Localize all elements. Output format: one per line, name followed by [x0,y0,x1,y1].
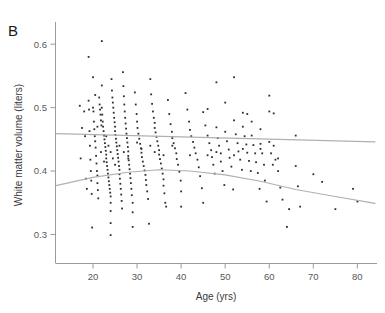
data-point [104,138,106,140]
data-point [145,184,147,186]
data-point [139,143,141,145]
data-point [246,113,248,115]
data-point [180,190,182,192]
data-point [279,187,281,189]
data-point [312,173,314,175]
data-point [98,97,100,99]
data-point [154,151,156,153]
data-point [233,76,235,78]
data-point [195,152,197,154]
data-point [141,148,143,150]
data-point [86,188,88,190]
data-point [229,157,231,159]
data-point [186,109,188,111]
data-point [185,92,187,94]
data-point [105,135,107,137]
data-point [297,185,299,187]
data-point [202,111,204,113]
data-point [110,210,112,212]
data-point [189,154,191,156]
data-point [123,95,125,97]
data-point [102,126,104,128]
data-point [188,121,190,123]
data-point [159,158,161,160]
data-point [170,123,172,125]
data-point [110,234,112,236]
data-point [112,107,114,109]
data-point [136,142,138,144]
data-point [207,135,209,137]
data-point [224,102,226,104]
data-point [135,104,137,106]
data-point [266,201,268,203]
data-point [163,178,165,180]
data-point [228,149,230,151]
data-point [268,141,270,143]
data-point [212,164,214,166]
data-point [126,133,128,135]
data-point [136,113,138,115]
x-tick-label: 40 [176,271,187,282]
data-point [220,152,222,154]
data-point [114,126,116,128]
data-point [120,188,122,190]
data-point [138,133,140,135]
data-point [248,160,250,162]
data-point [158,149,160,151]
data-point [111,90,113,92]
data-point [99,104,101,106]
data-point [161,168,163,170]
data-point [114,121,116,123]
data-point [167,99,169,101]
x-tick-label: 20 [88,271,99,282]
data-point [251,135,253,137]
data-point [259,188,261,190]
data-point [88,56,90,58]
data-point [124,117,126,119]
data-point [193,147,195,149]
data-point [171,137,173,139]
data-point [128,159,130,161]
data-point [81,127,83,129]
data-point [250,170,252,172]
data-point [126,137,128,139]
data-point [242,112,244,114]
data-point [192,141,194,143]
data-point [127,146,129,148]
data-point [235,133,237,135]
data-point [84,135,86,137]
data-point [352,188,354,190]
data-point [100,114,102,116]
data-point [92,107,94,109]
data-point [286,226,288,228]
data-point [134,92,136,94]
data-point [155,132,157,134]
data-point [100,119,102,121]
data-point [129,173,131,175]
data-point [89,159,91,161]
data-point [138,138,140,140]
data-point [143,165,145,167]
data-point [238,151,240,153]
data-point [91,193,93,195]
data-point [163,154,165,156]
data-point [105,154,107,156]
data-point [208,142,210,144]
data-point [222,170,224,172]
data-point [216,126,218,128]
data-point [255,161,257,163]
y-tick-labels: 0.30.40.50.6 [34,39,47,240]
data-point [107,173,109,175]
data-point [153,117,155,119]
data-point [136,121,138,123]
data-point [149,145,151,147]
data-point [99,109,101,111]
data-point [92,76,94,78]
data-point [201,187,203,189]
data-point [263,164,265,166]
data-point [210,149,212,151]
data-point [108,184,110,186]
data-point [104,142,106,144]
data-point [204,125,206,127]
data-point [120,194,122,196]
